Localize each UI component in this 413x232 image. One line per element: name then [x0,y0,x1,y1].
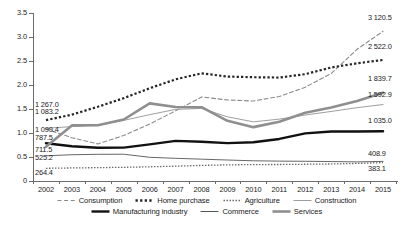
legend-item-label: Commerce [222,207,258,216]
end-value-label: 1 035.0 [368,117,392,125]
end-value-label: 3 120.5 [368,14,392,22]
legend-item-label: Agriculture [245,196,280,205]
legend-item-label: Construction [315,196,356,205]
legend-item-home-purchase[interactable]: Home purchase [135,196,209,205]
legend-item-label: Home purchase [157,196,209,205]
thick-gray-line-swatch [272,207,291,216]
chart-legend: ConsumptionHome purchaseAgricultureConst… [0,196,413,216]
series-line-agriculture [46,163,383,169]
end-value-label: 408.9 [368,150,386,158]
end-value-label: 2 522.0 [368,43,392,51]
series-line-consumption [46,31,383,144]
legend-item-commerce[interactable]: Commerce [200,207,258,216]
legend-row-secondary: Manufacturing industryCommerceServices [91,207,322,216]
start-value-label: 787.5 [35,134,53,142]
thick-dotted-line-swatch [135,196,154,205]
legend-item-agriculture[interactable]: Agriculture [223,196,280,205]
start-value-label: 264.4 [35,169,53,177]
legend-item-consumption[interactable]: Consumption [57,196,123,205]
thin-gray-line-swatch [293,196,312,205]
fine-dotted-line-swatch [223,196,242,205]
end-value-label: 1 592.9 [368,91,392,99]
dashed-line-swatch [57,196,76,205]
series-line-services [46,93,383,147]
end-value-label: 383.1 [368,165,386,173]
end-value-label: 1 839.7 [368,75,392,83]
legend-item-label: Manufacturing industry [113,207,188,216]
legend-item-manufacturing-industry[interactable]: Manufacturing industry [91,207,188,216]
legend-row-primary: ConsumptionHome purchaseAgricultureConst… [57,196,357,205]
start-value-label: 1 083.2 [35,108,59,116]
thin-dark-line-swatch [200,207,219,216]
legend-item-label: Consumption [79,196,123,205]
series-line-manufacturing-industry [46,131,383,147]
legend-item-construction[interactable]: Construction [293,196,356,205]
legend-item-services[interactable]: Services [272,207,322,216]
legend-item-label: Services [294,207,322,216]
thick-black-line-swatch [91,207,110,216]
start-value-label: 525.2 [35,154,53,162]
series-line-commerce [46,154,383,162]
line-chart: 00.51.01.52.02.53.03.5 20022003200420052… [0,0,413,232]
